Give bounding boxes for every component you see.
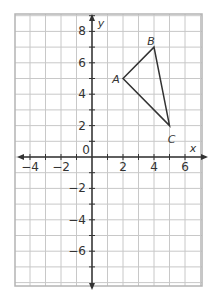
vertex-label-b: B — [147, 35, 155, 48]
y-tick-label: −4 — [68, 213, 86, 227]
y-tick-label: 2 — [78, 119, 86, 133]
y-tick-label: −6 — [68, 244, 86, 258]
coordinate-plane: −4−202468642−2−4−6 x y ABC — [0, 0, 211, 297]
y-tick-label: 8 — [78, 24, 86, 38]
x-axis-label: x — [189, 142, 197, 155]
x-axis-arrow-right-icon — [201, 154, 208, 160]
grid-border — [15, 14, 202, 286]
vertex-label-c: C — [168, 133, 176, 146]
y-tick-label: 4 — [78, 87, 86, 101]
x-tick-label: 0 — [82, 143, 90, 157]
vertex-label-a: A — [111, 73, 120, 86]
triangle-abc: ABC — [111, 35, 175, 146]
triangle-outline — [123, 47, 170, 126]
x-tick-label: −4 — [21, 160, 39, 174]
x-tick-label: −2 — [52, 160, 70, 174]
y-axis-label: y — [97, 17, 105, 30]
y-axis-arrow-up-icon — [89, 14, 95, 21]
y-tick-label: 6 — [78, 56, 86, 70]
x-tick-label: 6 — [181, 160, 189, 174]
grid-lines — [15, 14, 202, 286]
y-tick-label: −2 — [68, 181, 86, 195]
x-tick-label: 4 — [150, 160, 158, 174]
x-tick-label: 2 — [119, 160, 127, 174]
